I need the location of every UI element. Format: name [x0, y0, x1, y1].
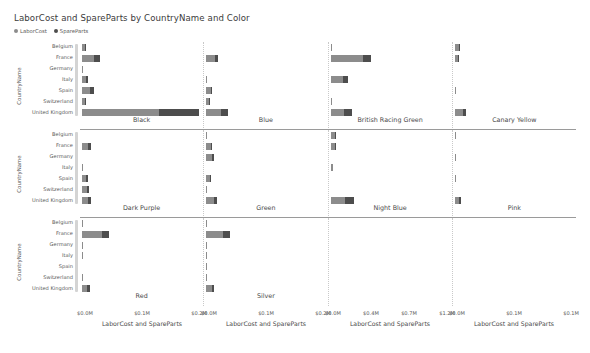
bar-row[interactable]: [331, 164, 448, 171]
bar-segment-spareparts[interactable]: [363, 55, 371, 62]
bar-row[interactable]: [82, 252, 199, 259]
bar-segment-laborcost[interactable]: [82, 220, 83, 227]
bar-segment-laborcost[interactable]: [206, 76, 207, 83]
bar-segment-laborcost[interactable]: [331, 98, 332, 105]
bar-row[interactable]: [331, 109, 448, 116]
bar-segment-laborcost[interactable]: [82, 242, 83, 249]
bar-row[interactable]: [455, 109, 572, 116]
bar-segment-spareparts[interactable]: [86, 175, 87, 182]
bar-segment-spareparts[interactable]: [88, 143, 90, 150]
bar-row[interactable]: [455, 98, 572, 105]
bar-row[interactable]: [331, 76, 448, 83]
facet-panel-red[interactable]: Red: [80, 218, 204, 306]
bar-row[interactable]: [331, 87, 448, 94]
bar-row[interactable]: [82, 186, 199, 193]
bar-row[interactable]: [331, 44, 448, 51]
bar-row[interactable]: [331, 55, 448, 62]
bar-segment-spareparts[interactable]: [459, 44, 460, 51]
bar-segment-laborcost[interactable]: [331, 55, 364, 62]
bar-row[interactable]: [331, 274, 448, 281]
facet-panel-empty[interactable]: [453, 218, 576, 306]
bar-row[interactable]: [206, 252, 323, 259]
bar-segment-laborcost[interactable]: [82, 87, 90, 94]
bar-row[interactable]: [455, 44, 572, 51]
bar-row[interactable]: [206, 164, 323, 171]
bar-row[interactable]: [206, 197, 323, 204]
legend-item-laborcost[interactable]: LaborCost: [14, 28, 47, 34]
bar-row[interactable]: [455, 186, 572, 193]
bar-segment-spareparts[interactable]: [458, 55, 459, 62]
bar-row[interactable]: [331, 143, 448, 150]
bar-row[interactable]: [455, 143, 572, 150]
bar-row[interactable]: [82, 76, 199, 83]
bar-row[interactable]: [206, 263, 323, 270]
bar-row[interactable]: [206, 274, 323, 281]
bar-segment-laborcost[interactable]: [455, 87, 456, 94]
bar-segment-laborcost[interactable]: [206, 197, 214, 204]
category-scrollbar[interactable]: [75, 220, 78, 292]
bar-segment-spareparts[interactable]: [210, 175, 211, 182]
bar-segment-spareparts[interactable]: [102, 231, 109, 238]
bar-segment-laborcost[interactable]: [331, 109, 345, 116]
bar-row[interactable]: [455, 154, 572, 161]
bar-row[interactable]: [206, 76, 323, 83]
bar-segment-laborcost[interactable]: [206, 263, 207, 270]
bar-segment-spareparts[interactable]: [86, 76, 87, 83]
bar-segment-spareparts[interactable]: [90, 87, 93, 94]
bar-segment-laborcost[interactable]: [206, 231, 223, 238]
bar-row[interactable]: [455, 164, 572, 171]
bar-row[interactable]: [82, 175, 199, 182]
category-scrollbar[interactable]: [75, 132, 78, 204]
bar-segment-laborcost[interactable]: [455, 132, 456, 139]
legend-item-spareparts[interactable]: SpareParts: [54, 28, 89, 34]
bar-row[interactable]: [82, 285, 199, 292]
bar-segment-laborcost[interactable]: [206, 55, 214, 62]
bar-row[interactable]: [206, 154, 323, 161]
bar-segment-spareparts[interactable]: [211, 143, 212, 150]
bar-row[interactable]: [455, 76, 572, 83]
bar-row[interactable]: [331, 242, 448, 249]
bar-segment-laborcost[interactable]: [82, 66, 83, 73]
bar-row[interactable]: [455, 175, 572, 182]
bar-row[interactable]: [455, 197, 572, 204]
bar-row[interactable]: [82, 197, 199, 204]
bar-row[interactable]: [455, 87, 572, 94]
bar-segment-spareparts[interactable]: [211, 87, 212, 94]
bar-row[interactable]: [82, 109, 199, 116]
bar-row[interactable]: [82, 143, 199, 150]
bar-row[interactable]: [331, 197, 448, 204]
bar-row[interactable]: [206, 132, 323, 139]
bar-segment-spareparts[interactable]: [345, 197, 354, 204]
bar-row[interactable]: [82, 220, 199, 227]
bar-row[interactable]: [206, 285, 323, 292]
bar-row[interactable]: [206, 143, 323, 150]
bar-row[interactable]: [455, 274, 572, 281]
bar-row[interactable]: [331, 252, 448, 259]
bar-segment-spareparts[interactable]: [335, 132, 336, 139]
category-scrollbar[interactable]: [75, 44, 78, 116]
bar-segment-laborcost[interactable]: [206, 132, 207, 139]
bar-segment-laborcost[interactable]: [331, 164, 334, 171]
bar-segment-spareparts[interactable]: [215, 55, 218, 62]
bar-row[interactable]: [82, 55, 199, 62]
facet-panel-black[interactable]: Black: [80, 42, 204, 130]
bar-row[interactable]: [331, 132, 448, 139]
bar-row[interactable]: [82, 132, 199, 139]
bar-segment-laborcost[interactable]: [82, 252, 83, 259]
bar-row[interactable]: [206, 186, 323, 193]
bar-segment-laborcost[interactable]: [82, 274, 83, 281]
bar-segment-spareparts[interactable]: [223, 231, 230, 238]
facet-panel-green[interactable]: Green: [204, 130, 328, 218]
bar-segment-laborcost[interactable]: [206, 274, 207, 281]
facet-panel-blue[interactable]: Blue: [204, 42, 328, 130]
bar-row[interactable]: [455, 252, 572, 259]
facet-panel-british-racing-green[interactable]: British Racing Green: [329, 42, 453, 130]
bar-row[interactable]: [455, 220, 572, 227]
bar-row[interactable]: [82, 87, 199, 94]
bar-row[interactable]: [206, 242, 323, 249]
bar-segment-spareparts[interactable]: [85, 98, 86, 105]
bar-row[interactable]: [331, 285, 448, 292]
facet-panel-silver[interactable]: Silver: [204, 218, 328, 306]
bar-segment-laborcost[interactable]: [82, 164, 83, 171]
bar-row[interactable]: [206, 231, 323, 238]
